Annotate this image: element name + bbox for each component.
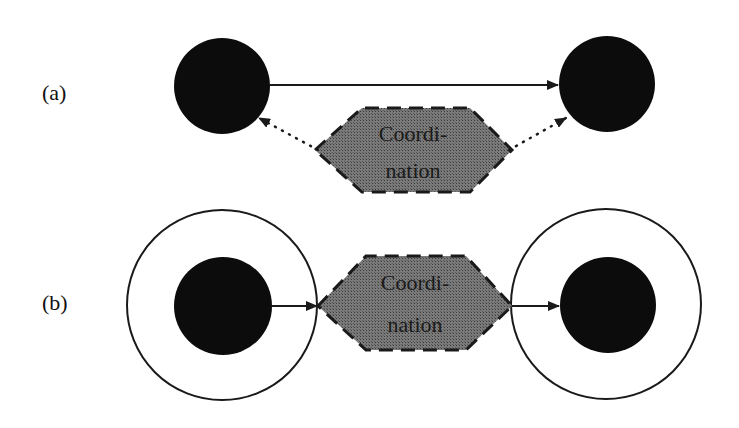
panel-a-label: (a) — [42, 80, 66, 105]
dotted-arrow-left — [259, 118, 318, 150]
agent-node-left-b — [174, 257, 272, 355]
coordination-text-line2-b: nation — [388, 312, 443, 337]
agent-node-left — [174, 38, 270, 134]
agent-node-right — [559, 36, 655, 132]
coordination-text-line1: Coordi- — [379, 121, 447, 146]
dotted-arrow-right — [509, 118, 566, 150]
coordination-text-line1-b: Coordi- — [381, 270, 449, 295]
coordination-text-line2: nation — [386, 158, 441, 183]
panel-a: (a) Coordi- nation — [42, 36, 655, 192]
panel-b-label: (b) — [42, 290, 68, 315]
coordination-diagram: (a) Coordi- nation (b) Coordi- nation — [0, 0, 739, 428]
panel-b: (b) Coordi- nation — [42, 209, 701, 400]
agent-node-right-b — [560, 257, 656, 353]
